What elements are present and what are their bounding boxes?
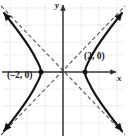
y-axis-label: y (55, 1, 59, 10)
vertex-left-label: (–2, 0) (7, 71, 32, 81)
vertex-right-label: (2, 0) (84, 52, 105, 62)
x-axis-label: x (117, 74, 122, 83)
vertex-right-dot (83, 70, 88, 75)
vertex-left-dot (39, 70, 44, 75)
hyperbola-figure: y x (–2, 0) (2, 0) (0, 0, 128, 140)
